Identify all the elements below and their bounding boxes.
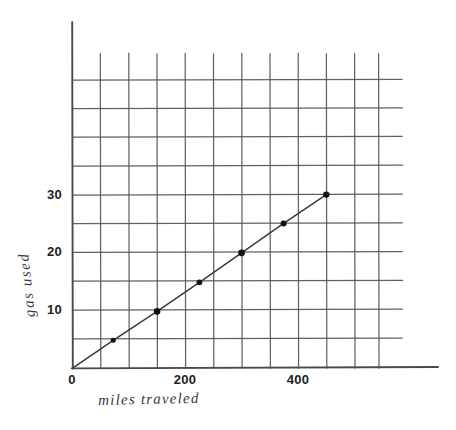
x-tick-label-200: 200 — [165, 372, 205, 387]
data-point-225-15 — [197, 279, 203, 285]
y-axis-line — [72, 22, 73, 369]
chart-canvas — [0, 0, 456, 430]
data-point-75-5 — [111, 338, 116, 343]
gridline-h-50 — [73, 108, 403, 109]
x-axis-title: miles traveled — [98, 390, 200, 409]
x-tick-label-0: 0 — [52, 372, 92, 387]
grid-lines-horizontal — [73, 79, 403, 338]
gridline-h-10 — [73, 309, 403, 310]
x-axis-line — [72, 367, 438, 368]
gridline-h-55 — [73, 79, 402, 80]
gridline-h-45 — [73, 136, 403, 137]
x-tick-label-400: 400 — [278, 372, 318, 387]
gridline-h-20 — [73, 252, 403, 253]
data-point-450-30 — [323, 191, 329, 197]
data-point-300-20 — [238, 249, 245, 256]
gridline-h-25 — [73, 223, 403, 224]
gridline-h-15 — [73, 280, 403, 281]
y-tick-label-30: 30 — [22, 187, 62, 202]
data-point-150-10 — [154, 308, 161, 315]
gridline-h-40 — [73, 165, 403, 166]
gridline-v-50 — [100, 54, 101, 368]
gridline-h-5 — [73, 338, 403, 339]
gridline-h-30 — [73, 194, 403, 195]
data-point-375-25 — [281, 220, 287, 226]
hand-drawn-line-chart: 30 20 10 0 200 400 miles traveled gas us… — [0, 0, 456, 430]
